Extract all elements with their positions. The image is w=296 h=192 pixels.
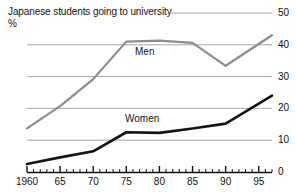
series-label-men: Men	[135, 47, 154, 57]
x-axis-tick-label: 80	[143, 177, 175, 187]
x-axis-ticks-group	[27, 166, 272, 172]
chart-plot-area	[0, 0, 296, 192]
x-axis-tick-label: 75	[110, 177, 142, 187]
y-axis-tick-label: 30	[278, 72, 289, 82]
x-axis-tick-label: 90	[210, 177, 242, 187]
y-axis-tick-label: 20	[278, 103, 289, 113]
x-axis-tick-label: 85	[177, 177, 209, 187]
x-axis-tick-label: 1960	[11, 177, 43, 187]
chart-container: Japanese students going to university % …	[0, 0, 296, 192]
y-axis-tick-label: 10	[278, 135, 289, 145]
x-axis-tick-label: 70	[77, 177, 109, 187]
series-label-women: Women	[125, 114, 159, 124]
y-axis-tick-label: 0	[278, 167, 284, 177]
x-axis-tick-label: 65	[44, 177, 76, 187]
x-axis-tick-label: 95	[243, 177, 275, 187]
y-axis-tick-label: 50	[278, 8, 289, 18]
y-axis-tick-label: 40	[278, 40, 289, 50]
series-line-women	[27, 96, 272, 164]
